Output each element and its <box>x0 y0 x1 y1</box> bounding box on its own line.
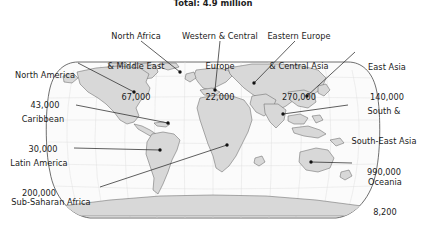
world-map-infographic: Total: 4.9 million <box>0 0 426 225</box>
marker-latin-america <box>158 148 161 151</box>
label-latin-america-line1: Latin America <box>6 158 72 168</box>
marker-sub-saharan-africa <box>225 143 228 146</box>
marker-oceania <box>309 160 312 163</box>
label-sub-saharan-africa: Sub-Saharan Africa 3.2 million <box>4 176 98 225</box>
label-east-asia-line1: East Asia <box>356 62 418 72</box>
label-sub-saharan-africa-line1: Sub-Saharan Africa <box>4 197 98 207</box>
label-oceania-line1: Oceania <box>357 177 413 187</box>
label-oceania-value: 8,200 <box>357 207 413 217</box>
label-north-america-line1: North America <box>10 70 80 80</box>
label-south-southeast-asia-line1: South & <box>344 106 424 116</box>
label-eastern-europe-central-asia-line1: Eastern Europe <box>249 31 349 41</box>
label-caribbean-line1: Caribbean <box>12 114 74 124</box>
label-eastern-europe-central-asia-value: 270,000 <box>249 92 349 102</box>
land-australia <box>299 148 334 172</box>
label-oceania: Oceania 8,200 <box>357 156 413 225</box>
label-eastern-europe-central-asia: Eastern Europe & Central Asia 270,000 <box>249 10 349 123</box>
label-eastern-europe-central-asia-line2: & Central Asia <box>249 61 349 71</box>
label-south-southeast-asia-line2: South-East Asia <box>344 136 424 146</box>
